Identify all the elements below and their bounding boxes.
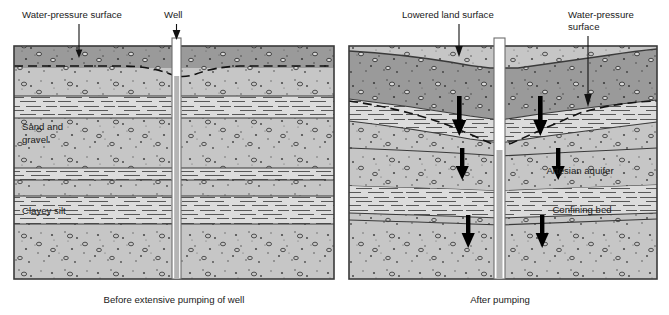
well-water-column: [174, 76, 179, 279]
callout-label: Water-pressure surface: [22, 9, 122, 20]
label-line-1: Sand and: [22, 121, 63, 132]
label-artesian-aquifer: Artesian aquifer: [546, 165, 614, 176]
label-line-1: Artesian aquifer: [546, 165, 614, 176]
panel-after: Lowered land surface Water-pressure surf…: [349, 9, 657, 305]
panel-before: Water-pressure surface Well Sand and gra…: [14, 9, 334, 305]
label-line-2: gravel: [22, 134, 48, 145]
callout-label: Well: [164, 9, 182, 20]
caption-before: Before extensive pumping of well: [104, 294, 245, 305]
callout-label-line-1: Water-pressure: [568, 9, 634, 20]
well-after: [494, 38, 505, 279]
callout-label: Lowered land surface: [402, 9, 494, 20]
caption-after: After pumping: [470, 294, 530, 305]
land-subsidence-diagram: Water-pressure surface Well Sand and gra…: [0, 0, 669, 315]
well-before: [172, 38, 181, 279]
callout-label-line-2: surface: [568, 21, 599, 32]
well-water-column: [497, 150, 503, 279]
label-line-1: Clayey silt: [22, 205, 66, 216]
label-confining-bed: Confining bed: [552, 204, 611, 215]
label-line-1: Confining bed: [552, 204, 611, 215]
label-clayey-silt: Clayey silt: [22, 205, 66, 216]
